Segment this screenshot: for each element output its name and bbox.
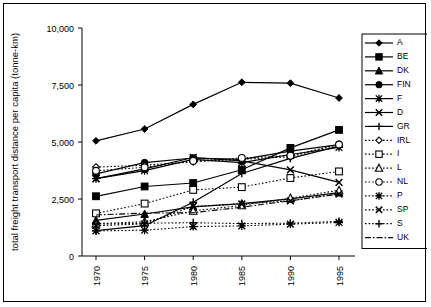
y-tick-label: 0 [69,252,74,262]
legend-item-label: S [397,218,403,228]
legend-item-label: P [397,190,403,200]
chart-legend: ABEDKFINFDGRIRLILNLPSPSUK [362,34,427,249]
legend-item-label: UK [397,232,409,242]
series-l [92,186,343,227]
y-tick-label: 10,000 [46,24,74,34]
legend-item-label: L [397,162,402,172]
line-chart: 10,0007,5005,0002,5000197019751980198519… [4,4,427,303]
series-d [93,154,343,186]
y-tick-label: 2,500 [51,195,74,205]
legend-item-label: A [397,37,403,47]
legend-item-p[interactable]: P [365,190,403,200]
legend-item-fin[interactable]: FIN [365,79,411,89]
y-axis-label: total freight transport distance per cap… [9,33,20,251]
legend-item-label: I [397,148,399,158]
legend-item-d[interactable]: D [365,107,403,117]
plot-area [92,79,343,235]
legend-item-uk[interactable]: UK [365,232,409,242]
series-nl [93,141,343,174]
x-tick-label: 1970 [92,266,102,286]
legend-item-nl[interactable]: NL [365,176,408,186]
legend-item-s[interactable]: S [365,218,403,228]
series-gr [92,142,343,234]
legend-item-dk[interactable]: DK [365,65,409,75]
series-dk [92,189,343,224]
legend-item-label: D [397,107,403,117]
x-tick-label: 1975 [140,266,150,286]
x-tick-label: 1990 [286,266,296,286]
legend-item-label: NL [397,176,408,186]
figure-frame: 10,0007,5005,0002,5000197019751980198519… [3,3,426,302]
legend-item-be[interactable]: BE [365,51,409,61]
legend-item-label: FIN [397,79,411,89]
legend-item-sp[interactable]: SP [365,204,409,214]
legend-item-label: GR [397,121,410,131]
legend-item-label: DK [397,65,409,75]
x-tick-label: 1980 [189,266,199,286]
x-tick-label: 1985 [237,266,247,286]
y-tick-label: 7,500 [51,81,74,91]
series-be [93,127,343,200]
legend-item-label: BE [397,51,409,61]
legend-item-label: SP [397,204,409,214]
legend-item-l[interactable]: L [365,162,402,172]
legend-item-label: IRL [397,135,411,145]
legend-item-f[interactable]: F [365,93,402,103]
y-tick-label: 5,000 [51,138,74,148]
legend-item-i[interactable]: I [365,148,399,158]
series-a [93,79,343,144]
legend-item-irl[interactable]: IRL [365,135,411,145]
x-tick-label: 1995 [335,266,345,286]
legend-item-label: F [397,93,402,103]
legend-item-gr[interactable]: GR [365,121,410,131]
legend-item-a[interactable]: A [365,37,403,47]
